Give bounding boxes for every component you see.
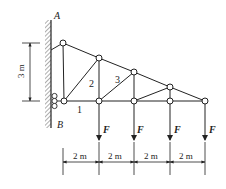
dim-label-2: 2 m [108, 151, 122, 161]
load-label-2: F [136, 124, 144, 135]
member-label-1: 1 [77, 104, 82, 115]
loads [99, 101, 205, 140]
member-label-2: 2 [89, 78, 94, 89]
load-label-3: F [173, 124, 181, 135]
label-b: B [57, 119, 63, 130]
truss-diagram: A B 1 2 3 F F F F 3 m 2 m 2 m 2 m 2 m [0, 0, 226, 189]
dim-label-3: 2 m [144, 151, 158, 161]
dim-label-4: 2 m [179, 151, 193, 161]
vertical-dimension-label: 3 m [16, 64, 26, 78]
wall [45, 20, 51, 128]
member-label-3: 3 [115, 74, 120, 85]
dim-label-1: 2 m [73, 151, 87, 161]
load-label-4: F [208, 124, 216, 135]
label-a: A [53, 10, 61, 21]
load-label-1: F [102, 124, 110, 135]
